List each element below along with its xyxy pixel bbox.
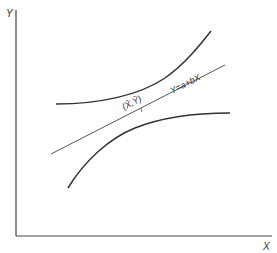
y-axis-label: Y [6,8,14,19]
upper-confidence-curve [56,31,211,104]
regression-equation-label: Y=a+bX [168,72,202,96]
x-axis-label: X [262,241,270,252]
lower-confidence-curve [68,113,230,188]
regression-diagram: Y X (X̄,Ȳ) Y=a+bX [0,0,277,253]
mean-point-tick [141,108,142,112]
